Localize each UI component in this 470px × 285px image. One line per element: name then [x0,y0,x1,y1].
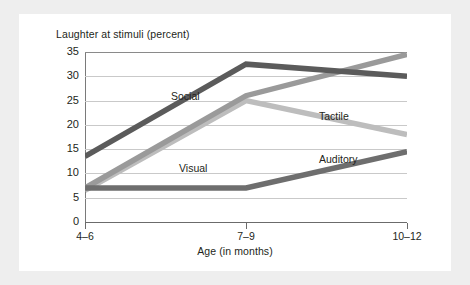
x-tick-label-1: 7–9 [237,230,255,242]
x-tick-label-2: 10–12 [392,230,421,242]
y-tick-0: 0 [49,216,79,227]
y-tick-35: 35 [49,46,79,57]
series-label-visual: Visual [179,162,207,174]
x-axis-title: Age (in months) [19,245,451,257]
y-tick-15: 15 [49,143,79,154]
series-line-visual [85,101,407,191]
chart-title: Laughter at stimuli (percent) [56,28,190,40]
y-tick-20: 20 [49,119,79,130]
y-tick-30: 30 [49,70,79,81]
x-tick-mark-0 [85,223,86,229]
series-lines [85,52,407,222]
x-tick-mark-2 [407,223,408,229]
y-axis-tick-labels: 35 30 25 20 15 10 5 0 [47,52,79,222]
series-label-social: Social [171,90,200,102]
x-tick-mark-1 [246,223,247,229]
y-tick-10: 10 [49,167,79,178]
line-chart-figure: Laughter at stimuli (percent) 35 30 25 2… [19,14,451,271]
x-tick-label-0: 4–6 [76,230,94,242]
series-line-auditory [85,152,407,188]
series-label-auditory: Auditory [319,153,358,165]
y-tick-5: 5 [49,192,79,203]
chart-card: Laughter at stimuli (percent) 35 30 25 2… [19,14,451,271]
series-label-tactile: Tactile [319,110,349,122]
series-line-social [85,64,407,156]
y-tick-25: 25 [49,95,79,106]
